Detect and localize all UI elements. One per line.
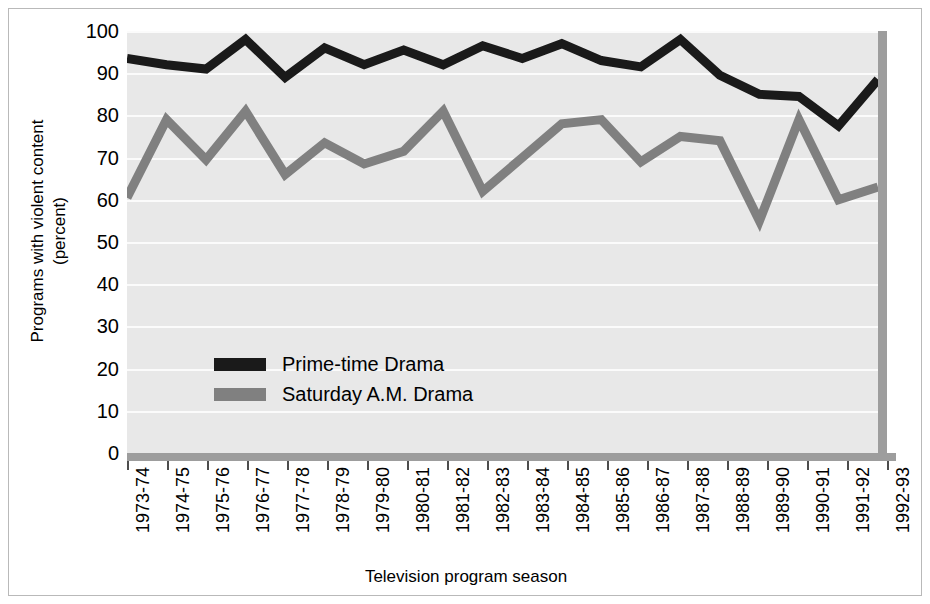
y-axis-tick-labels: 1009080706050403020100 xyxy=(67,9,119,595)
x-tick-label-1990-91: 1990-91 xyxy=(814,467,832,567)
x-tick-label-1975-76: 1975-76 xyxy=(214,467,232,567)
x-tick-label-1987-88: 1987-88 xyxy=(694,467,712,567)
x-axis-tick-labels: 1973-741974-751975-761976-771977-781978-… xyxy=(127,467,887,572)
x-tick-label-1988-89: 1988-89 xyxy=(734,467,752,567)
chart-legend: Prime-time DramaSaturday A.M. Drama xyxy=(214,349,473,409)
legend-swatch-icon xyxy=(214,388,266,401)
x-tick-label-1984-85: 1984-85 xyxy=(574,467,592,567)
x-tick-label-1978-79: 1978-79 xyxy=(334,467,352,567)
x-tick-label-1985-86: 1985-86 xyxy=(614,467,632,567)
x-tick-label-1973-74: 1973-74 xyxy=(134,467,152,567)
y-tick-label-80: 80 xyxy=(75,105,119,125)
y-tick-label-50: 50 xyxy=(75,232,119,252)
violent-content-line-chart: Programs with violent content (percent) … xyxy=(9,9,921,595)
y-tick-label-60: 60 xyxy=(75,190,119,210)
legend-label: Prime-time Drama xyxy=(282,353,444,376)
y-tick-label-10: 10 xyxy=(75,401,119,421)
x-axis-title: Television program season xyxy=(9,567,923,587)
y-tick-label-20: 20 xyxy=(75,359,119,379)
x-tick-label-1981-82: 1981-82 xyxy=(454,467,472,567)
y-tick-label-90: 90 xyxy=(75,63,119,83)
x-tick-label-1986-87: 1986-87 xyxy=(654,467,672,567)
y-tick-label-70: 70 xyxy=(75,148,119,168)
x-tick-label-1977-78: 1977-78 xyxy=(294,467,312,567)
legend-item-saturday-am-drama[interactable]: Saturday A.M. Drama xyxy=(214,379,473,409)
y-tick-label-0: 0 xyxy=(75,443,119,463)
y-axis-title-line1: Programs with violent content xyxy=(28,120,47,343)
x-tick-label-1974-75: 1974-75 xyxy=(174,467,192,567)
x-tick-label-1976-77: 1976-77 xyxy=(254,467,272,567)
y-tick-label-100: 100 xyxy=(75,21,119,41)
x-tick-label-1989-90: 1989-90 xyxy=(774,467,792,567)
y-axis-title: Programs with violent content (percent) xyxy=(27,41,71,421)
x-tick-label-1983-84: 1983-84 xyxy=(534,467,552,567)
y-tick-label-30: 30 xyxy=(75,316,119,336)
chart-frame: Programs with violent content (percent) … xyxy=(8,8,922,596)
legend-swatch-icon xyxy=(214,358,266,371)
x-tick-1992-93 xyxy=(887,461,889,470)
legend-item-prime-time-drama[interactable]: Prime-time Drama xyxy=(214,349,473,379)
legend-label: Saturday A.M. Drama xyxy=(282,383,473,406)
series-line-saturday-am-drama xyxy=(127,111,878,221)
x-tick-label-1979-80: 1979-80 xyxy=(374,467,392,567)
x-tick-label-1980-81: 1980-81 xyxy=(414,467,432,567)
x-tick-label-1992-93: 1992-93 xyxy=(894,467,912,567)
y-tick-label-40: 40 xyxy=(75,274,119,294)
x-tick-label-1991-92: 1991-92 xyxy=(854,467,872,567)
x-tick-label-1982-83: 1982-83 xyxy=(494,467,512,567)
